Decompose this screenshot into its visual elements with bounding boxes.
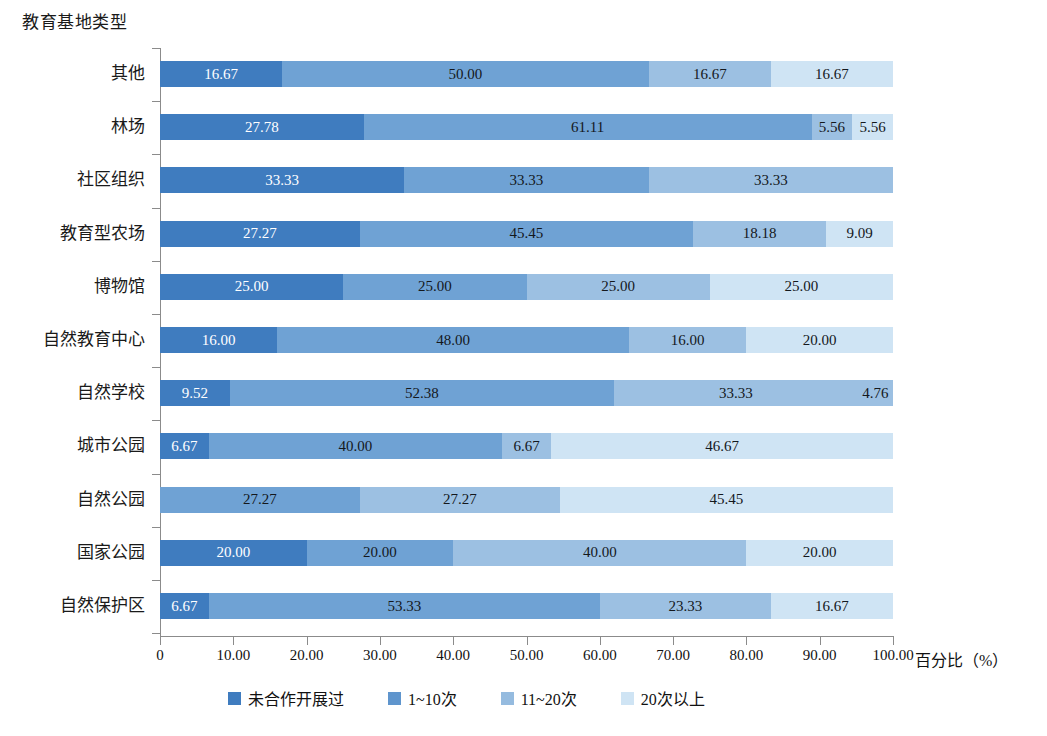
bar-segment[interactable]: 27.78	[160, 114, 364, 140]
legend-item[interactable]: 20次以上	[621, 686, 705, 710]
bar-segment[interactable]: 40.00	[453, 540, 746, 566]
legend-label: 1~10次	[408, 686, 457, 710]
legend-item[interactable]: 11~20次	[501, 686, 577, 710]
x-axis-tick-label: 20.00	[267, 647, 347, 664]
x-axis-tick-label: 90.00	[780, 647, 860, 664]
x-axis-tick	[820, 637, 821, 645]
bar-segment[interactable]: 16.67	[771, 61, 893, 87]
bar-row: 其他16.6750.0016.6716.67	[160, 61, 893, 87]
bar-segment[interactable]: 27.27	[360, 487, 560, 513]
bar-segment[interactable]: 52.38	[230, 380, 614, 406]
bar-segment-value: 20.00	[803, 545, 837, 560]
x-axis-tick-label: 60.00	[560, 647, 640, 664]
category-label: 国家公园	[0, 540, 145, 566]
bar-track: 33.3333.3333.33	[160, 167, 893, 193]
bar-segment-value: 53.33	[387, 599, 421, 614]
bar-segment-value: 16.67	[693, 67, 727, 82]
bar-segment[interactable]: 18.18	[693, 221, 826, 247]
bar-segment[interactable]: 16.67	[649, 61, 771, 87]
bar-row: 教育型农场27.2745.4518.189.09	[160, 221, 893, 247]
x-axis-tick	[307, 637, 308, 645]
bar-segment[interactable]: 16.00	[160, 327, 277, 353]
bar-segment[interactable]: 53.33	[209, 593, 600, 619]
legend-swatch-icon	[501, 692, 514, 705]
bar-segment[interactable]: 46.67	[551, 433, 893, 459]
y-axis-tick	[152, 580, 160, 581]
bar-segment[interactable]: 40.00	[209, 433, 502, 459]
bar-segment-value: 45.45	[510, 226, 544, 241]
bar-segment[interactable]: 33.33	[614, 380, 858, 406]
bar-track: 16.0048.0016.0020.00	[160, 327, 893, 353]
bar-segment[interactable]: 9.09	[826, 221, 893, 247]
category-label: 自然学校	[0, 380, 145, 406]
x-axis-tick-label: 30.00	[340, 647, 420, 664]
bar-row: 自然公园27.2727.2745.45	[160, 487, 893, 513]
bar-segment[interactable]: 4.76	[858, 380, 893, 406]
bar-track: 9.5252.3833.334.76	[160, 380, 893, 406]
bar-segment[interactable]: 20.00	[160, 540, 307, 566]
bar-row: 林场27.7861.115.565.56	[160, 114, 893, 140]
bar-segment[interactable]: 5.56	[852, 114, 893, 140]
bar-segment[interactable]: 16.67	[771, 593, 893, 619]
bar-track: 27.7861.115.565.56	[160, 114, 893, 140]
legend-label: 20次以上	[641, 686, 705, 710]
bar-segment[interactable]: 45.45	[360, 221, 693, 247]
bar-segment-value: 16.00	[202, 333, 236, 348]
bar-track: 25.0025.0025.0025.00	[160, 274, 893, 300]
bar-segment-value: 45.45	[709, 492, 743, 507]
x-axis-tick-label: 40.00	[413, 647, 493, 664]
category-label: 自然保护区	[0, 593, 145, 619]
bar-segment[interactable]: 27.27	[160, 487, 360, 513]
bar-row: 自然学校9.5252.3833.334.76	[160, 380, 893, 406]
legend-label: 未合作开展过	[248, 686, 344, 710]
bar-segment[interactable]: 9.52	[160, 380, 230, 406]
bar-segment[interactable]: 25.00	[160, 274, 343, 300]
bar-segment[interactable]: 33.33	[160, 167, 404, 193]
bar-segment[interactable]: 20.00	[746, 540, 893, 566]
x-axis-tick	[380, 637, 381, 645]
bar-segment[interactable]: 5.56	[812, 114, 853, 140]
bar-segment[interactable]: 6.67	[160, 593, 209, 619]
bar-segment[interactable]: 61.11	[364, 114, 812, 140]
x-axis-tick	[600, 637, 601, 645]
bar-segment[interactable]: 20.00	[307, 540, 454, 566]
bar-segment[interactable]: 6.67	[160, 433, 209, 459]
y-axis-tick	[152, 101, 160, 102]
bar-track: 27.2745.4518.189.09	[160, 221, 893, 247]
legend-item[interactable]: 1~10次	[388, 686, 457, 710]
plot-area: 其他16.6750.0016.6716.67林场27.7861.115.565.…	[160, 50, 893, 635]
bar-segment-value: 33.33	[719, 386, 753, 401]
bar-segment[interactable]: 27.27	[160, 221, 360, 247]
bar-segment-value: 4.76	[862, 386, 888, 401]
bar-track: 6.6753.3323.3316.67	[160, 593, 893, 619]
bar-segment[interactable]: 25.00	[343, 274, 526, 300]
bar-segment[interactable]: 25.00	[710, 274, 893, 300]
bar-segment-value: 25.00	[601, 279, 635, 294]
category-label: 自然公园	[0, 487, 145, 513]
bar-segment-value: 50.00	[449, 67, 483, 82]
bar-segment[interactable]: 48.00	[277, 327, 629, 353]
legend-item[interactable]: 未合作开展过	[228, 686, 344, 710]
x-axis-tick	[673, 637, 674, 645]
bar-segment-value: 20.00	[216, 545, 250, 560]
legend-swatch-icon	[228, 692, 241, 705]
bar-segment[interactable]: 45.45	[560, 487, 893, 513]
bar-segment-value: 23.33	[668, 599, 702, 614]
y-axis-tick	[152, 474, 160, 475]
bar-track: 20.0020.0040.0020.00	[160, 540, 893, 566]
x-axis-title: 百分比（%）	[915, 647, 1008, 671]
bar-segment[interactable]: 6.67	[502, 433, 551, 459]
bar-segment-value: 25.00	[418, 279, 452, 294]
bar-segment[interactable]: 20.00	[746, 327, 893, 353]
bar-segment[interactable]: 16.00	[629, 327, 746, 353]
bar-segment[interactable]: 50.00	[282, 61, 649, 87]
bar-segment-value: 46.67	[705, 439, 739, 454]
bar-segment-value: 20.00	[363, 545, 397, 560]
bar-segment[interactable]: 16.67	[160, 61, 282, 87]
bar-segment[interactable]: 25.00	[527, 274, 710, 300]
y-axis-tick	[152, 314, 160, 315]
bar-segment[interactable]: 33.33	[649, 167, 893, 193]
bar-segment[interactable]: 23.33	[600, 593, 771, 619]
bar-segment[interactable]: 33.33	[404, 167, 648, 193]
category-label: 自然教育中心	[0, 327, 145, 353]
